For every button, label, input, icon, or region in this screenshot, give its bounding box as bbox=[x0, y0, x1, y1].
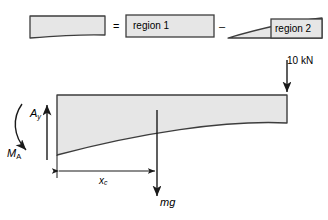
equals-sign: = bbox=[113, 21, 119, 32]
centroid-distance-label: xc bbox=[99, 176, 107, 187]
point-load-label: 10 kN bbox=[287, 56, 313, 66]
region2-label: region 2 bbox=[275, 24, 311, 34]
weight-label: mg bbox=[160, 197, 175, 208]
minus-sign: – bbox=[219, 21, 225, 32]
reaction-moment-label: MA bbox=[7, 148, 21, 160]
diagram-canvas: = region 1 – region 2 10 kN Ay MA xc mg bbox=[0, 0, 328, 220]
reaction-force-subscript: y bbox=[37, 112, 41, 121]
region1-label: region 1 bbox=[133, 21, 169, 31]
reaction-moment-symbol: M bbox=[7, 147, 16, 159]
tapered-beam-body bbox=[57, 95, 287, 155]
reaction-moment-arrow bbox=[15, 104, 26, 150]
reaction-force-label: Ay bbox=[30, 108, 41, 120]
reaction-moment-subscript: A bbox=[16, 152, 21, 161]
centroid-distance-subscript: c bbox=[104, 179, 107, 186]
composite-area-shape bbox=[30, 16, 105, 38]
